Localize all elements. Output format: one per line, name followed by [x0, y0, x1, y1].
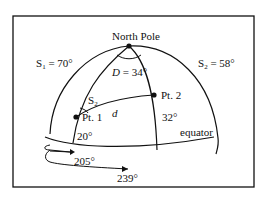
meridian-pt2 — [129, 46, 157, 150]
d-angle-value: = 34° — [120, 66, 147, 78]
s2-angle-label: S2 — [88, 94, 98, 110]
lon2-label: 239° — [117, 172, 138, 184]
pt1-label: Pt. 1 — [82, 111, 102, 123]
s2-top-label: S2 = 58° — [198, 57, 235, 73]
equator-label: equator — [180, 126, 213, 138]
pt2-label: Pt. 2 — [161, 89, 181, 101]
meridian-pt1 — [73, 46, 129, 143]
s2-top-value: = 58° — [208, 57, 235, 69]
lat1-label: 20° — [77, 130, 92, 142]
equator-line — [45, 137, 214, 146]
d-angle-var: D — [112, 66, 120, 78]
lon1-line — [50, 151, 70, 152]
pt1-point — [73, 114, 78, 119]
lat2-label: 32° — [162, 111, 177, 123]
distance-label: d — [112, 107, 118, 119]
s2-angle-sub: 2 — [94, 100, 98, 108]
north-pole-point — [126, 43, 131, 48]
lon1-label: 205° — [74, 155, 95, 167]
s1-label: S1 = 70° — [36, 57, 73, 73]
pt2-point — [151, 92, 156, 97]
spherical-triangle-diagram: North Pole S1 = 70° S2 = 58° D = 34° S2 … — [0, 0, 264, 199]
s1-value: = 70° — [46, 57, 73, 69]
north-pole-label: North Pole — [112, 30, 160, 42]
d-angle-label: D = 34° — [112, 66, 147, 78]
